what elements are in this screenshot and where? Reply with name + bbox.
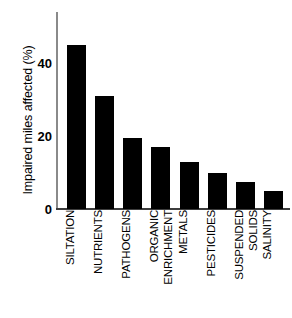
x-tick-line: PATHOGENS	[120, 210, 134, 314]
x-tick-line: SALINITY	[261, 210, 275, 314]
x-tick-line: ORGANIC	[148, 210, 162, 314]
x-tick-label-pesticides: PESTICIDES	[205, 210, 231, 314]
bars-layer	[56, 12, 290, 209]
x-tick-label-suspended-solids: SUSPENDED SOLIDS	[233, 210, 259, 314]
y-tick-label-40: 40	[26, 57, 52, 70]
bar-organic-enrichment	[151, 147, 170, 209]
x-tick-line: NUTRIENTS	[92, 210, 106, 314]
x-tick-label-nutrients: NUTRIENTS	[92, 210, 118, 314]
bar-salinity	[264, 191, 283, 209]
x-tick-label-organic-enrichment: ORGANIC ENRICHMENT	[148, 210, 174, 314]
x-tick-line: SILTATION	[64, 210, 78, 314]
x-tick-label-metals: METALS	[177, 210, 203, 314]
y-tick-label-0: 0	[26, 203, 52, 216]
x-tick-label-pathogens: PATHOGENS	[120, 210, 146, 314]
bar-nutrients	[95, 96, 114, 209]
bar-siltation	[67, 45, 86, 209]
x-tick-label-group: SILTATION NUTRIENTS PATHOGENS ORGANIC EN…	[56, 210, 290, 318]
bar-suspended-solids	[236, 182, 255, 209]
x-tick-label-siltation: SILTATION	[64, 210, 90, 314]
y-tick-label-20: 20	[26, 130, 52, 143]
x-tick-line: SUSPENDED	[233, 210, 247, 314]
x-tick-line: METALS	[177, 210, 191, 314]
bar-metals	[180, 162, 199, 209]
bar-pesticides	[208, 173, 227, 209]
x-tick-line: PESTICIDES	[205, 210, 219, 314]
bar-chart-figure: Impaired miles affected (%) 40 20 0 SILT…	[0, 0, 292, 318]
y-tick-label-group: 40 20 0	[14, 0, 52, 318]
bar-pathogens	[123, 138, 142, 209]
x-tick-label-salinity: SALINITY	[261, 210, 287, 314]
x-tick-line: ENRICHMENT	[162, 210, 176, 314]
x-tick-line: SOLIDS	[247, 210, 261, 314]
